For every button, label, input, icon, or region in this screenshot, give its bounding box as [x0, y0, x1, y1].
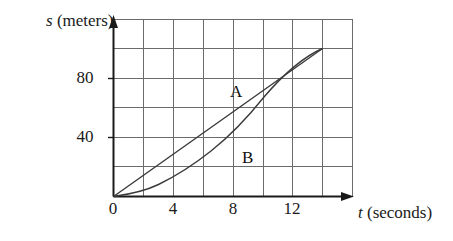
- y-axis-title: s (meters): [46, 11, 114, 31]
- y-axis-unit: (meters): [57, 11, 114, 30]
- x-tick-label-0: 0: [99, 199, 127, 219]
- curve-b-label: B: [242, 148, 253, 168]
- y-tick-label-80: 80: [70, 68, 100, 88]
- x-tick-label-12: 12: [278, 199, 306, 219]
- y-tick-label-40: 40: [70, 127, 100, 147]
- curve-a-label: A: [230, 82, 242, 102]
- x-axis-unit: (seconds): [367, 203, 432, 222]
- x-tick-label-8: 8: [219, 199, 247, 219]
- graph-figure: s (meters) t (seconds) 80 40 0 4 8 12 A …: [0, 0, 453, 241]
- x-axis-title: t (seconds): [358, 203, 432, 223]
- curve-a-line: [114, 49, 323, 197]
- y-axis-variable: s: [46, 11, 53, 30]
- y-axis: [109, 15, 118, 197]
- x-tick-label-4: 4: [159, 199, 187, 219]
